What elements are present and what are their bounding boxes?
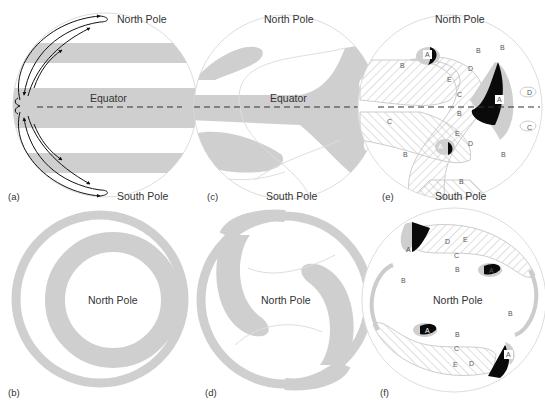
svg-text:B: B <box>455 266 460 273</box>
equator-label: Equator <box>90 92 127 104</box>
south-pole-label: South Pole <box>117 190 169 202</box>
svg-text:B: B <box>476 47 481 54</box>
north-pole-label: North Pole <box>433 294 483 306</box>
svg-text:D: D <box>468 65 473 72</box>
figure-canvas: North Pole Equator South Pole (a) North … <box>0 0 545 407</box>
north-pole-label: North Pole <box>88 294 138 306</box>
panel-b: North Pole (b) <box>8 215 184 398</box>
svg-text:B: B <box>459 178 464 185</box>
panel-tag-e: (e) <box>382 191 394 202</box>
svg-text:C: C <box>457 91 462 98</box>
equator-label: Equator <box>270 92 307 104</box>
svg-text:B: B <box>455 331 460 338</box>
panel-tag-b: (b) <box>8 387 20 398</box>
svg-text:D: D <box>469 360 474 367</box>
svg-text:E: E <box>453 361 458 368</box>
svg-text:A: A <box>489 267 494 274</box>
north-pole-label: North Pole <box>435 13 485 25</box>
svg-text:E: E <box>455 130 460 137</box>
panel-d: North Pole (d) <box>201 216 369 398</box>
svg-text:B: B <box>501 151 506 158</box>
panel-a: North Pole Equator South Pole (a) <box>0 13 200 202</box>
svg-text:B: B <box>457 110 462 117</box>
svg-text:C: C <box>387 118 392 125</box>
svg-text:D: D <box>527 89 532 96</box>
north-pole-label: North Pole <box>261 294 311 306</box>
svg-text:B: B <box>508 310 513 317</box>
svg-text:A: A <box>425 327 430 334</box>
svg-text:A: A <box>406 246 411 253</box>
svg-text:C: C <box>454 252 459 259</box>
svg-text:D: D <box>445 238 450 245</box>
svg-text:B: B <box>500 44 505 51</box>
panel-tag-a: (a) <box>8 191 20 202</box>
svg-text:B: B <box>401 277 406 284</box>
svg-text:E: E <box>447 76 452 83</box>
panel-e: A A A B B B B B B B C C C D D D E E Nort… <box>358 13 542 210</box>
panel-tag-c: (c) <box>207 191 218 202</box>
svg-text:A: A <box>506 351 511 358</box>
svg-text:D: D <box>468 140 473 147</box>
svg-text:A: A <box>425 51 430 58</box>
south-pole-label: South Pole <box>266 190 318 202</box>
svg-text:B: B <box>403 151 408 158</box>
svg-text:C: C <box>527 124 532 131</box>
svg-text:E: E <box>463 236 468 243</box>
svg-text:A: A <box>438 143 443 150</box>
north-pole-label: North Pole <box>117 13 167 25</box>
panel-tag-d: (d) <box>205 387 217 398</box>
panel-f: A A A A B B B B C C D D E E North Pole (… <box>362 208 545 398</box>
svg-text:B: B <box>400 62 405 69</box>
latitude-bands <box>0 43 200 173</box>
svg-text:C: C <box>454 345 459 352</box>
south-pole-label: South Pole <box>435 190 487 202</box>
panel-tag-f: (f) <box>380 387 389 398</box>
svg-text:A: A <box>497 96 502 103</box>
north-pole-label: North Pole <box>264 13 314 25</box>
